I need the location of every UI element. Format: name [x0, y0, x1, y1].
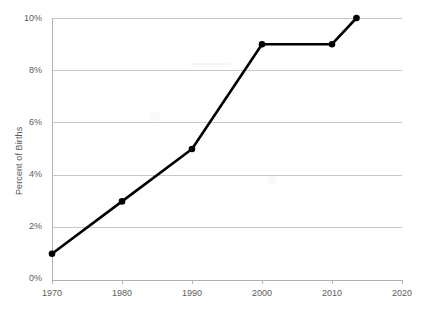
- data-point: [49, 251, 56, 258]
- data-point: [353, 15, 360, 22]
- chart-container: Percent of Births 0% 2% 4% 6% 8% 10% 197…: [0, 0, 422, 310]
- data-point: [189, 146, 196, 153]
- data-point: [329, 41, 336, 48]
- plot-area: [0, 0, 422, 310]
- x-axis-ticks: [52, 280, 402, 284]
- gridlines: [52, 18, 402, 280]
- data-line-series-0: [52, 18, 357, 254]
- data-point: [259, 41, 266, 48]
- data-point: [119, 198, 126, 205]
